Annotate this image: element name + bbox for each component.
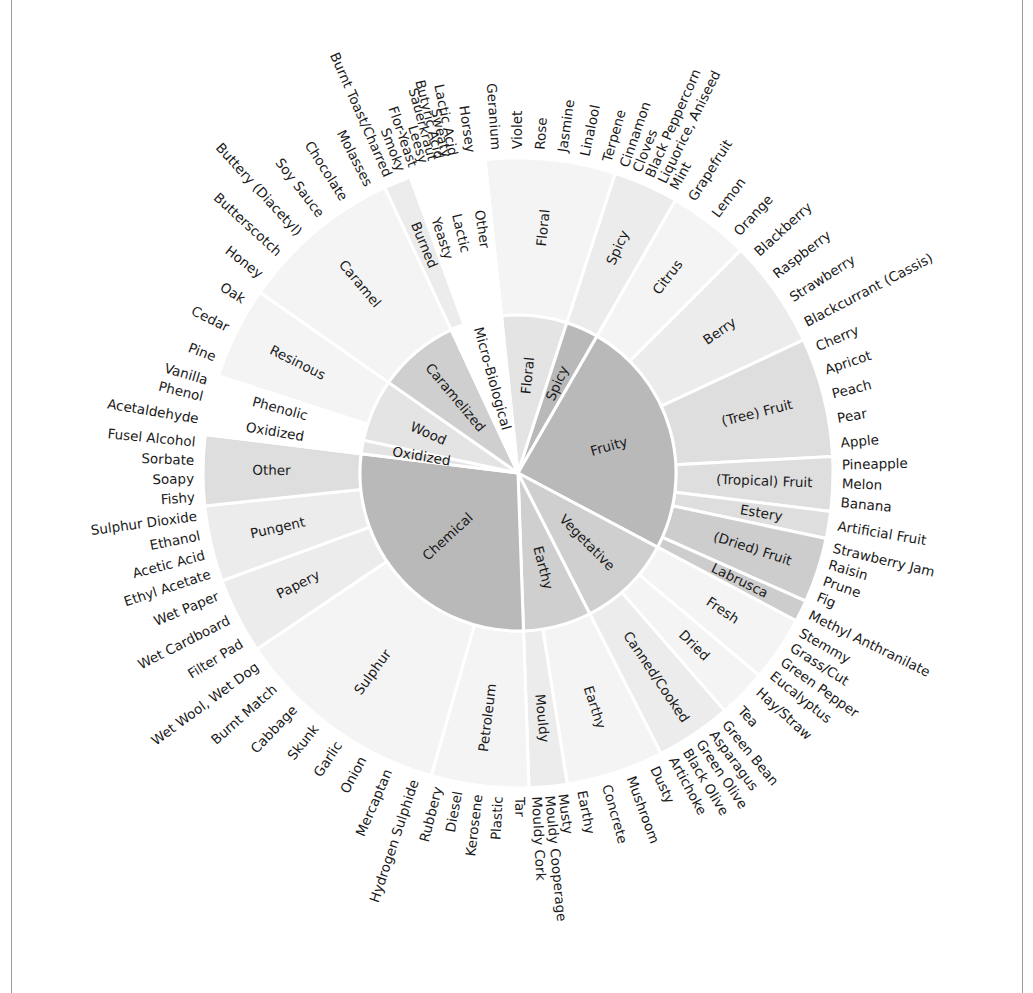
descriptor-label-plastic: Plastic (487, 796, 506, 841)
descriptor-label-kerosene: Kerosene (462, 793, 485, 857)
descriptor-label-pine: Pine (186, 339, 218, 364)
descriptor-label-apricot: Apricot (823, 347, 874, 377)
descriptor-label-diesel: Diesel (442, 790, 465, 834)
descriptor-label-honey: Honey (222, 242, 266, 281)
subcategory-label-tropical-fruit: (Tropical) Fruit (716, 471, 813, 490)
subcategory-label-other: Other (252, 462, 291, 478)
descriptor-label-melon: Melon (842, 475, 883, 492)
descriptor-label-geranium: Geranium (484, 83, 505, 151)
descriptor-label-rose: Rose (532, 117, 550, 150)
descriptor-label-linalool: Linalool (577, 103, 603, 157)
aroma-wheel: FloralSpicyCitrusBerry(Tree) Fruit(Tropi… (0, 0, 1033, 993)
category-ring (360, 315, 676, 631)
descriptor-label-fusel-alcohol: Fusel Alcohol (107, 425, 196, 449)
descriptor-label-pineapple: Pineapple (842, 455, 908, 473)
descriptor-label-concrete: Concrete (599, 782, 631, 845)
descriptor-label-banana: Banana (840, 494, 892, 515)
descriptor-label-jasmine: Jasmine (554, 98, 577, 154)
descriptor-label-cedar: Cedar (189, 302, 232, 334)
descriptor-label-earthy: Earthy (574, 789, 598, 835)
descriptor-label-sorbate: Sorbate (141, 450, 194, 468)
descriptor-label-pear: Pear (836, 405, 868, 426)
descriptor-label-mouldy-cork: Mouldy Cork (529, 796, 550, 881)
descriptor-label-soapy: Soapy (152, 470, 194, 487)
descriptor-label-tar: Tar (512, 796, 528, 817)
descriptor-label-blackcurrant-cassis: Blackcurrant (Cassis) (801, 249, 935, 329)
descriptor-label-fishy: Fishy (160, 489, 195, 508)
descriptor-label-peach: Peach (830, 376, 873, 401)
descriptor-label-rubbery: Rubbery (416, 785, 445, 844)
descriptor-label-oak: Oak (217, 279, 248, 307)
descriptor-label-cherry: Cherry (813, 322, 861, 354)
descriptor-label-skunk: Skunk (284, 721, 322, 763)
descriptor-label-violet: Violet (509, 111, 525, 149)
descriptor-label-apple: Apple (840, 431, 880, 450)
descriptor-label-garlic: Garlic (310, 738, 345, 780)
descriptor-label-onion: Onion (337, 753, 370, 796)
